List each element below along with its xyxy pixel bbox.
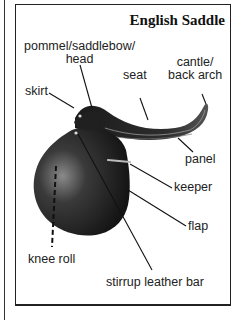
label-flap: flap — [188, 220, 208, 233]
label-knee-roll: knee roll — [28, 253, 75, 266]
label-cantle-line2: back arch — [168, 69, 222, 82]
label-pommel: pommel/saddlebow/ head — [24, 40, 135, 66]
saddle-flap-shape — [34, 127, 130, 235]
label-pommel-line2: head — [24, 53, 135, 66]
label-cantle: cantle/ back arch — [168, 56, 222, 82]
label-skirt: skirt — [25, 85, 48, 98]
label-stirrup-leather-bar: stirrup leather bar — [106, 276, 204, 289]
label-keeper: keeper — [174, 181, 212, 194]
label-panel: panel — [185, 153, 216, 166]
label-seat: seat — [123, 69, 147, 82]
